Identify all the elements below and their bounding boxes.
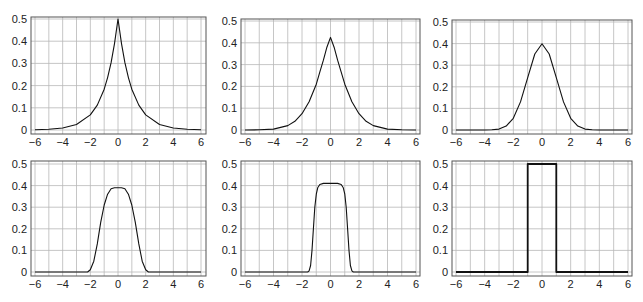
y-tick-label: 0.2 bbox=[12, 223, 27, 235]
x-tick-label: −4 bbox=[478, 136, 491, 148]
x-tick-label: 4 bbox=[384, 278, 390, 290]
y-tick-label: 0.5 bbox=[222, 15, 237, 27]
x-tick-label: 6 bbox=[625, 136, 631, 148]
x-tick-label: −6 bbox=[29, 136, 42, 148]
x-tick-label: 6 bbox=[198, 136, 204, 148]
y-tick-label: 0.3 bbox=[222, 59, 237, 71]
y-tick-label: 0 bbox=[21, 266, 27, 278]
grid-lines bbox=[31, 17, 206, 134]
y-tick-label: 0.4 bbox=[222, 37, 237, 49]
x-tick-label: −4 bbox=[267, 278, 280, 290]
y-tick-label: 0.5 bbox=[433, 16, 448, 28]
x-tick-label: −2 bbox=[296, 136, 309, 148]
y-tick-label: 0 bbox=[442, 124, 448, 136]
grid-lines bbox=[452, 161, 632, 276]
x-tick-label: −2 bbox=[507, 136, 520, 148]
x-tick-label: 0 bbox=[539, 136, 545, 148]
y-tick-label: 0 bbox=[231, 266, 237, 278]
y-tick-label: 0.1 bbox=[433, 102, 448, 114]
y-tick-label: 0.2 bbox=[12, 80, 27, 92]
y-tick-label: 0.3 bbox=[222, 201, 237, 213]
x-tick-label: 0 bbox=[327, 136, 333, 148]
y-tick-label: 0 bbox=[21, 124, 27, 136]
y-tick-label: 0.2 bbox=[222, 80, 237, 92]
x-tick-label: −2 bbox=[296, 278, 309, 290]
grid-lines bbox=[241, 19, 420, 134]
x-tick-label: 0 bbox=[115, 136, 121, 148]
x-tick-label: 2 bbox=[568, 278, 574, 290]
x-tick-label: 2 bbox=[568, 136, 574, 148]
density-plot-2: 00.10.20.30.40.5−6−4−20246 bbox=[222, 15, 420, 148]
y-tick-label: 0.4 bbox=[12, 35, 27, 47]
y-tick-label: 0.3 bbox=[12, 201, 27, 213]
density-plot-4: 00.10.20.30.40.5−6−4−20246 bbox=[12, 158, 206, 290]
x-tick-label: −6 bbox=[450, 136, 463, 148]
x-tick-label: −4 bbox=[478, 278, 491, 290]
x-tick-label: 0 bbox=[327, 278, 333, 290]
x-tick-label: 6 bbox=[413, 278, 419, 290]
x-tick-label: −2 bbox=[84, 136, 97, 148]
plot-frame bbox=[31, 161, 206, 276]
x-tick-label: −6 bbox=[239, 136, 252, 148]
y-tick-label: 0.1 bbox=[222, 102, 237, 114]
y-tick-label: 0.3 bbox=[12, 57, 27, 69]
x-tick-label: −6 bbox=[239, 278, 252, 290]
y-tick-label: 0.3 bbox=[433, 59, 448, 71]
density-plot-5: 00.10.20.30.40.5−6−4−20246 bbox=[222, 158, 420, 290]
grid-lines bbox=[31, 161, 206, 276]
x-tick-label: 0 bbox=[539, 278, 545, 290]
y-tick-label: 0.4 bbox=[433, 180, 448, 192]
y-tick-label: 0.3 bbox=[433, 201, 448, 213]
x-tick-label: −2 bbox=[84, 278, 97, 290]
x-tick-label: 4 bbox=[170, 278, 176, 290]
y-tick-label: 0.1 bbox=[12, 244, 27, 256]
x-tick-label: −6 bbox=[29, 278, 42, 290]
x-tick-label: 4 bbox=[596, 278, 602, 290]
x-tick-label: 6 bbox=[625, 278, 631, 290]
x-tick-label: 2 bbox=[143, 136, 149, 148]
y-tick-label: 0 bbox=[442, 266, 448, 278]
x-tick-label: 6 bbox=[413, 136, 419, 148]
y-tick-label: 0.5 bbox=[433, 158, 448, 170]
y-tick-label: 0.1 bbox=[12, 102, 27, 114]
y-tick-label: 0.2 bbox=[433, 81, 448, 93]
x-tick-label: 6 bbox=[198, 278, 204, 290]
charts-svg: 00.10.20.30.40.5−6−4−2024600.10.20.30.40… bbox=[0, 0, 643, 302]
x-tick-label: 2 bbox=[143, 278, 149, 290]
y-tick-label: 0.1 bbox=[222, 244, 237, 256]
x-tick-label: 0 bbox=[115, 278, 121, 290]
plot-frame bbox=[31, 17, 206, 134]
y-tick-label: 0.4 bbox=[222, 180, 237, 192]
y-tick-label: 0.4 bbox=[433, 38, 448, 50]
y-tick-label: 0.1 bbox=[433, 244, 448, 256]
x-tick-label: −4 bbox=[267, 136, 280, 148]
grid-lines bbox=[452, 20, 632, 134]
y-tick-label: 0.4 bbox=[12, 180, 27, 192]
x-tick-label: 4 bbox=[170, 136, 176, 148]
y-tick-label: 0.5 bbox=[222, 158, 237, 170]
density-plot-3: 00.10.20.30.40.5−6−4−20246 bbox=[433, 16, 632, 148]
x-tick-label: −6 bbox=[450, 278, 463, 290]
x-tick-label: −4 bbox=[56, 278, 69, 290]
x-tick-label: −2 bbox=[507, 278, 520, 290]
density-plot-1: 00.10.20.30.40.5−6−4−20246 bbox=[12, 13, 206, 148]
x-tick-label: 2 bbox=[356, 136, 362, 148]
y-tick-label: 0.5 bbox=[12, 158, 27, 170]
grid-lines bbox=[241, 161, 420, 276]
x-tick-label: 4 bbox=[384, 136, 390, 148]
y-tick-label: 0.5 bbox=[12, 13, 27, 25]
x-tick-label: 2 bbox=[356, 278, 362, 290]
x-tick-label: 4 bbox=[596, 136, 602, 148]
y-tick-label: 0.2 bbox=[433, 223, 448, 235]
density-plot-6: 00.10.20.30.40.5−6−4−20246 bbox=[433, 158, 632, 290]
x-tick-label: −4 bbox=[56, 136, 69, 148]
y-tick-label: 0 bbox=[231, 124, 237, 136]
y-tick-label: 0.2 bbox=[222, 223, 237, 235]
figure-grid: 00.10.20.30.40.5−6−4−2024600.10.20.30.40… bbox=[0, 0, 643, 302]
